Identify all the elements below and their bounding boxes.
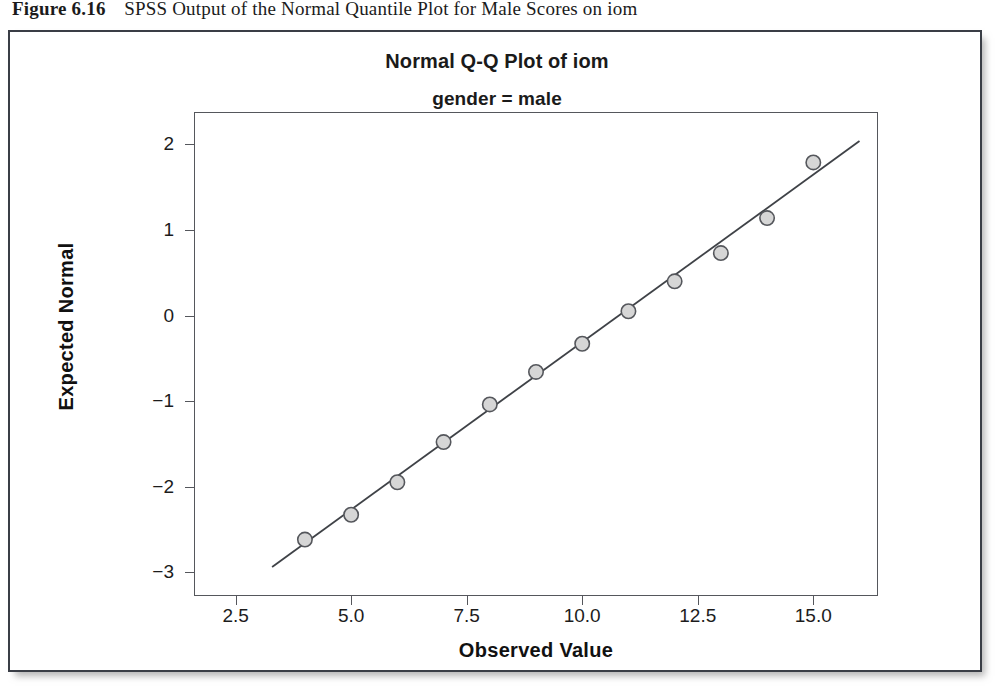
qq-plot-chart: Normal Q-Q Plot of iom gender = male −3−… — [10, 32, 984, 674]
y-tick-label: −1 — [130, 390, 174, 412]
x-tick-label: 12.5 — [663, 605, 733, 627]
y-tick-label: 0 — [130, 305, 174, 327]
data-point — [483, 397, 497, 411]
x-axis-label: Observed Value — [194, 639, 878, 662]
y-tick-label: 1 — [130, 219, 174, 241]
x-tick-label: 7.5 — [432, 605, 502, 627]
y-tick-label: 2 — [130, 133, 174, 155]
data-point — [714, 246, 728, 260]
data-point — [667, 274, 681, 288]
plot-canvas — [194, 112, 878, 596]
x-tick-mark — [236, 596, 237, 605]
y-tick-label: −2 — [130, 476, 174, 498]
y-tick-mark — [185, 572, 194, 573]
data-point — [344, 508, 358, 522]
data-point — [760, 211, 774, 225]
y-tick-mark — [185, 316, 194, 317]
normal-reference-line — [272, 141, 859, 567]
chart-title: Normal Q-Q Plot of iom — [10, 50, 984, 73]
figure-caption-label: Figure 6.16 — [12, 0, 106, 19]
y-axis-label: Expected Normal — [55, 207, 78, 447]
y-tick-label: −3 — [130, 561, 174, 583]
x-tick-mark — [582, 596, 583, 605]
data-point — [529, 365, 543, 379]
x-tick-label: 15.0 — [778, 605, 848, 627]
figure-caption: Figure 6.16 SPSS Output of the Normal Qu… — [12, 0, 982, 26]
x-tick-label: 5.0 — [316, 605, 386, 627]
y-tick-mark — [185, 401, 194, 402]
data-point — [436, 435, 450, 449]
x-tick-mark — [698, 596, 699, 605]
chart-subtitle: gender = male — [10, 88, 984, 110]
x-tick-mark — [351, 596, 352, 605]
x-tick-mark — [813, 596, 814, 605]
x-tick-label: 2.5 — [201, 605, 271, 627]
figure-panel: Normal Q-Q Plot of iom gender = male −3−… — [8, 30, 982, 672]
y-tick-mark — [185, 144, 194, 145]
y-tick-mark — [185, 230, 194, 231]
data-point — [298, 532, 312, 546]
data-point — [621, 304, 635, 318]
data-point — [390, 475, 404, 489]
data-point — [806, 155, 820, 169]
y-tick-mark — [185, 487, 194, 488]
data-point — [575, 337, 589, 351]
x-tick-mark — [467, 596, 468, 605]
x-tick-label: 10.0 — [547, 605, 617, 627]
figure-caption-text: SPSS Output of the Normal Quantile Plot … — [124, 0, 637, 19]
